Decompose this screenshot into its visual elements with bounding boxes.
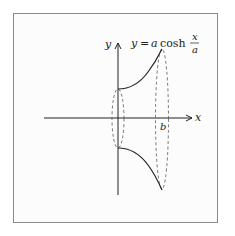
svg-text:y: y [130,37,138,50]
y-axis-label: y [104,38,112,51]
svg-text:=: = [140,37,149,50]
svg-text:cosh: cosh [160,37,186,50]
catenoid-diagram: y x b y = a cosh x a [0,0,235,236]
upper-catenary-curve [118,49,162,89]
svg-text:x: x [192,31,198,42]
right-cross-section-ellipse [156,49,169,189]
svg-text:a: a [192,44,198,55]
equation-label: y = a cosh x a [130,31,199,55]
b-label: b [160,121,166,132]
x-axis-label: x [195,111,202,124]
svg-text:a: a [151,37,158,50]
lower-catenary-curve [118,148,162,190]
